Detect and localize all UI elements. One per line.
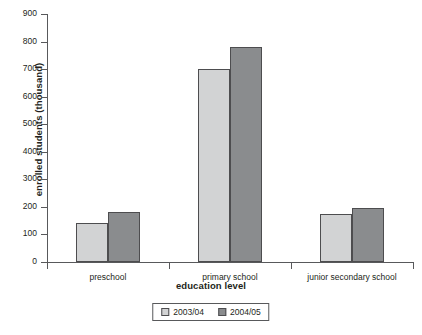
y-axis-tick: 600 xyxy=(41,97,48,98)
legend-swatch-icon xyxy=(218,308,226,316)
y-axis-tick: 700 xyxy=(41,69,48,70)
y-axis-tick-label: 600 xyxy=(23,91,37,102)
x-axis-tick xyxy=(413,262,414,269)
x-axis-tick xyxy=(291,262,292,269)
y-axis-tick: 400 xyxy=(41,152,48,153)
x-axis-tick xyxy=(47,262,48,269)
plot-area: 9008007006005004003002001000 preschoolpr… xyxy=(47,14,413,262)
legend-label: 2003/04 xyxy=(173,307,204,317)
x-axis-title: education level xyxy=(0,280,422,291)
y-axis-title: enrolled students (thousand) xyxy=(33,30,44,230)
x-axis-tick xyxy=(169,262,170,269)
y-axis-tick-label: 200 xyxy=(23,201,37,212)
bar xyxy=(352,208,384,262)
y-axis-tick-label: 100 xyxy=(23,228,37,239)
y-axis-tick-label: 500 xyxy=(23,118,37,129)
bar xyxy=(108,212,140,262)
bar xyxy=(320,214,352,262)
y-axis-line xyxy=(47,14,48,263)
bar xyxy=(198,69,230,262)
y-axis-tick: 100 xyxy=(41,234,48,235)
bar xyxy=(76,223,108,262)
bar xyxy=(230,47,262,262)
y-axis-tick-label: 800 xyxy=(23,36,37,47)
y-axis-tick-label: 300 xyxy=(23,173,37,184)
y-axis-tick-label: 700 xyxy=(23,63,37,74)
bar-chart: enrolled students (thousand) 90080070060… xyxy=(0,0,422,335)
y-axis-tick: 500 xyxy=(41,124,48,125)
y-axis-tick-label: 0 xyxy=(32,256,37,267)
y-axis-tick-label: 900 xyxy=(23,8,37,19)
y-axis-tick: 300 xyxy=(41,179,48,180)
legend-swatch-icon xyxy=(161,308,169,316)
x-axis-line xyxy=(47,262,413,263)
legend-item[interactable]: 2003/04 xyxy=(161,307,204,317)
legend-label: 2004/05 xyxy=(230,307,261,317)
y-axis-tick: 800 xyxy=(41,42,48,43)
legend-item[interactable]: 2004/05 xyxy=(218,307,261,317)
chart-legend: 2003/042004/05 xyxy=(152,303,269,321)
y-axis-tick: 200 xyxy=(41,207,48,208)
y-axis-tick-label: 400 xyxy=(23,146,37,157)
y-axis-tick: 900 xyxy=(41,14,48,15)
